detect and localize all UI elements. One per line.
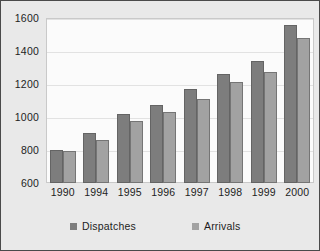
- bar-dispatches-1990: [50, 150, 63, 183]
- bar-dispatches-1999: [251, 61, 264, 183]
- bar-arrivals-1997: [197, 99, 210, 183]
- chart-legend: DispatchesArrivals: [46, 217, 314, 235]
- bar-arrivals-1994: [96, 140, 109, 183]
- bar-group: [284, 18, 310, 183]
- bar-dispatches-1995: [117, 114, 130, 183]
- bar-group: [83, 18, 109, 183]
- x-axis: 19901994199519961997199819992000: [46, 186, 314, 202]
- bar-arrivals-1995: [130, 121, 143, 183]
- bar-group: [217, 18, 243, 183]
- x-tick-label: 1995: [118, 186, 142, 198]
- bar-arrivals-1998: [230, 82, 243, 183]
- x-tick-label: 1999: [252, 186, 276, 198]
- x-tick-label: 2000: [285, 186, 309, 198]
- bar-arrivals-2000: [297, 38, 310, 183]
- bar-group: [184, 18, 210, 183]
- y-tick-label: 1400: [15, 45, 39, 57]
- bar-chart-figure: 1600140012001000800600 19901994199519961…: [0, 0, 320, 251]
- y-tick-label: 1200: [15, 78, 39, 90]
- bar-dispatches-1996: [150, 105, 163, 183]
- legend-label: Dispatches: [82, 220, 136, 232]
- bar-group: [50, 18, 76, 183]
- bar-group: [117, 18, 143, 183]
- legend-label: Arrivals: [204, 220, 241, 232]
- bar-arrivals-1990: [63, 151, 76, 183]
- y-tick-label: 800: [21, 144, 39, 156]
- y-axis: 1600140012001000800600: [1, 18, 43, 183]
- x-tick-label: 1990: [51, 186, 75, 198]
- y-tick-label: 1600: [15, 12, 39, 24]
- legend-item-dispatches: Dispatches: [70, 220, 136, 232]
- dispatches-swatch: [70, 223, 77, 230]
- bar-dispatches-1998: [217, 74, 230, 183]
- bar-group: [251, 18, 277, 183]
- bar-arrivals-1999: [264, 72, 277, 183]
- arrivals-swatch: [192, 223, 199, 230]
- x-tick-label: 1997: [185, 186, 209, 198]
- y-tick-label: 1000: [15, 111, 39, 123]
- bars-layer: [46, 18, 314, 183]
- x-tick-label: 1998: [218, 186, 242, 198]
- y-tick-label: 600: [21, 177, 39, 189]
- bar-dispatches-1994: [83, 133, 96, 183]
- x-tick-label: 1994: [84, 186, 108, 198]
- x-tick-label: 1996: [151, 186, 175, 198]
- bar-dispatches-2000: [284, 25, 297, 183]
- legend-item-arrivals: Arrivals: [192, 220, 241, 232]
- bar-arrivals-1996: [163, 112, 176, 183]
- bar-dispatches-1997: [184, 89, 197, 183]
- bar-group: [150, 18, 176, 183]
